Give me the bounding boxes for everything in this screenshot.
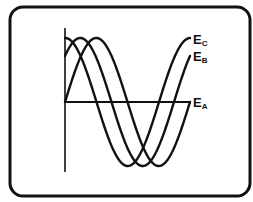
diagram-canvas: EAEBEC — [0, 0, 253, 202]
label-e-c: EC — [193, 32, 208, 48]
waveform-diagram: EAEBEC — [0, 0, 253, 202]
label-e-b: EB — [193, 49, 208, 65]
label-e-a: EA — [193, 95, 208, 111]
series-labels: EAEBEC — [193, 32, 208, 111]
